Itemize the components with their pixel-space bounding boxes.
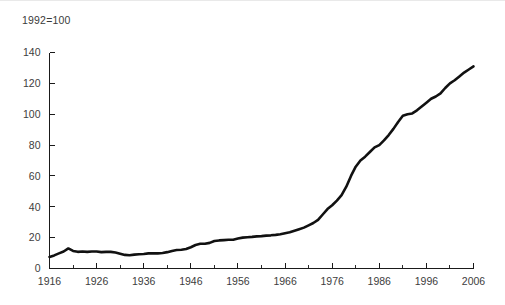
y-tick-label: 40 xyxy=(29,201,41,213)
x-axis-tick-labels: 1916192619361946195619661976198619962006 xyxy=(38,275,486,287)
x-tick-label: 1916 xyxy=(38,275,62,287)
y-tick-label: 120 xyxy=(23,77,41,89)
chart-figure: 1992=100 020406080100120140 191619261936… xyxy=(0,0,505,305)
y-tick-label: 0 xyxy=(35,262,41,274)
y-tick-label: 20 xyxy=(29,231,41,243)
y-axis-tick-labels: 020406080100120140 xyxy=(23,46,41,274)
x-tick-label: 1976 xyxy=(320,275,344,287)
x-tick-label: 1926 xyxy=(85,275,109,287)
y-tick-label: 100 xyxy=(23,108,41,120)
data-series-line xyxy=(50,66,474,257)
x-tick-label: 1966 xyxy=(273,275,297,287)
line-chart-plot: 020406080100120140 191619261936194619561… xyxy=(0,0,505,305)
x-tick-label: 1936 xyxy=(132,275,156,287)
x-tick-label: 1986 xyxy=(368,275,392,287)
x-tick-label: 2006 xyxy=(462,275,486,287)
x-tick-label: 1996 xyxy=(415,275,439,287)
y-tick-label: 60 xyxy=(29,170,41,182)
y-tick-label: 140 xyxy=(23,46,41,58)
x-tick-label: 1946 xyxy=(179,275,203,287)
y-tick-label: 80 xyxy=(29,139,41,151)
x-tick-label: 1956 xyxy=(226,275,250,287)
